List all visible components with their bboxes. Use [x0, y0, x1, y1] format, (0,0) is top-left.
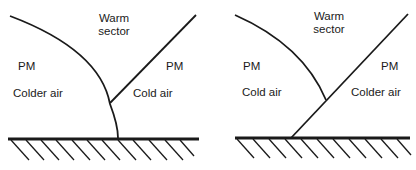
left-airmass-name: PM — [243, 60, 260, 73]
occlusion-diagram-right: Warm sector PM Cold air PM Colder air — [208, 0, 416, 170]
warm-sector-line1: Warm — [307, 10, 351, 23]
warm-sector-line2: sector — [92, 25, 136, 38]
right-airmass-desc: Colder air — [351, 86, 401, 99]
ground-hatching-left — [11, 140, 194, 160]
ground-hatching-right — [237, 139, 411, 158]
warm-sector-line1: Warm — [92, 12, 136, 25]
warm-sector-label: Warm sector — [92, 12, 136, 38]
right-airmass-name: PM — [166, 60, 183, 73]
left-airmass-name: PM — [18, 60, 35, 73]
occlusion-diagram-left: Warm sector PM Colder air PM Cold air — [0, 0, 208, 170]
right-airmass-desc: Cold air — [133, 87, 173, 100]
left-airmass-desc: Colder air — [13, 87, 63, 100]
warm-sector-line2: sector — [307, 23, 351, 36]
right-airmass-name: PM — [381, 60, 398, 73]
warm-sector-label: Warm sector — [307, 10, 351, 36]
left-airmass-desc: Cold air — [242, 86, 282, 99]
